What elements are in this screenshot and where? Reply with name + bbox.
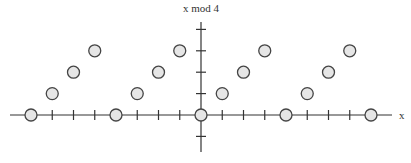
data-point: [25, 109, 37, 121]
data-point: [365, 109, 377, 121]
x-axis-label: x: [399, 109, 405, 121]
data-point: [259, 45, 271, 57]
data-point: [301, 88, 313, 100]
data-point: [195, 109, 207, 121]
data-point: [174, 45, 186, 57]
data-point: [68, 66, 80, 78]
data-point: [216, 88, 228, 100]
data-point: [323, 66, 335, 78]
axes: [10, 22, 392, 152]
data-point: [238, 66, 250, 78]
data-point: [153, 66, 165, 78]
data-point: [89, 45, 101, 57]
data-point: [280, 109, 292, 121]
data-point: [46, 88, 58, 100]
y-axis-label: x mod 4: [183, 2, 220, 14]
data-point: [131, 88, 143, 100]
chart: x x mod 4: [0, 0, 411, 163]
data-point: [110, 109, 122, 121]
data-point: [344, 45, 356, 57]
